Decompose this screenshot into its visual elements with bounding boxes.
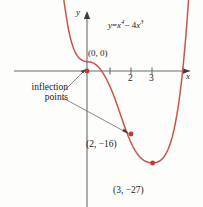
equation-minus-four: − 4 (124, 20, 136, 30)
equation-label: y=x4− 4x3 (108, 19, 143, 30)
point-marker-origin (85, 69, 90, 74)
inflection-leader-lines (63, 69, 129, 134)
inflection-label-line-2: points (6, 93, 68, 103)
graph-figure: y=x4− 4x3 (0, 0) 2 3 x y inflection poin… (0, 0, 203, 207)
point-marker-3-neg27 (150, 161, 155, 166)
origin-point-label: (0, 0) (88, 49, 108, 58)
function-plot (0, 0, 203, 207)
point-label-2-neg16: (2, −16) (86, 140, 117, 150)
point-label-3-neg27: (3, −27) (113, 186, 144, 196)
inflection-points-label: inflection points (6, 83, 68, 103)
x-tick-label-2: 2 (128, 74, 133, 84)
y-axis-label: y (76, 8, 80, 17)
x-tick-label-3: 3 (149, 74, 154, 84)
x-axis-label: x (186, 72, 190, 81)
point-marker-2-neg16 (129, 132, 134, 137)
y-axis (84, 11, 90, 207)
y-axis-arrowhead (84, 11, 90, 19)
equation-exponent-3: 3 (140, 18, 143, 25)
